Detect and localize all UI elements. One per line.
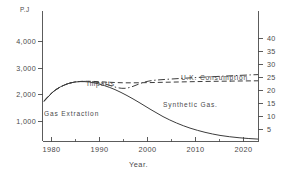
series-line-imports [44,81,258,101]
x-axis-tick-1980: 1980 [32,145,72,154]
y-axis-unit-label: P.J [20,6,30,13]
x-axis-tick-2000: 2000 [128,145,168,154]
y-axis-tick-1000: 1,000 [2,117,36,126]
series-label-gas-extraction: Gas Extraction [44,110,99,117]
y2-axis-tick-25: 25 [267,73,276,82]
y-axis-tick-3000: 3,000 [2,64,36,73]
y-axis-tick-4000: 4,000 [2,37,36,46]
y2-axis-tick-5: 5 [267,125,271,134]
y2-axis-tick-35: 35 [267,47,276,56]
x-axis-tick-1990: 1990 [80,145,120,154]
series-label-synthetic-gas: Synthetic Gas. [163,101,218,108]
x-axis-title: Year. [129,160,148,169]
y-axis-tick-2000: 2,000 [2,90,36,99]
chart-figure: P.J 4,000 3,000 2,000 1,000 40 35 30 25 … [0,0,288,175]
y2-axis-tick-10: 10 [267,112,276,121]
series-label-uk-consumption: U.K. Consumption [181,74,248,81]
y2-axis-tick-20: 20 [267,86,276,95]
x-axis-tick-2010: 2010 [176,145,216,154]
series-label-imports: Imports [87,80,115,87]
y2-axis-tick-30: 30 [267,60,276,69]
y2-axis-tick-15: 15 [267,99,276,108]
y2-axis-tick-40: 40 [267,34,276,43]
x-axis-tick-2020: 2020 [224,145,264,154]
